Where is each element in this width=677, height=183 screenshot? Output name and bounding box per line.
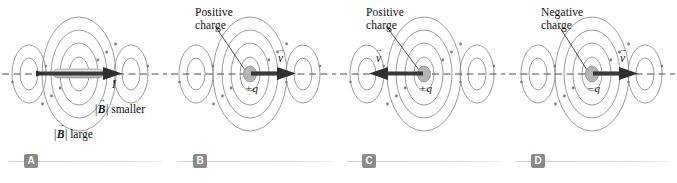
- magnetic-field-figure: I |B| smaller |B| large A: [0, 0, 677, 183]
- velocity-label: v: [277, 52, 284, 64]
- current-label: I: [112, 78, 116, 90]
- charge-caption: Negative charge: [541, 6, 583, 32]
- panel-b-footer: B: [169, 153, 338, 169]
- field-magnitude-large-label: |B| large: [54, 128, 93, 140]
- field-ring: [460, 45, 494, 103]
- panel-c-diagram: [338, 0, 507, 155]
- field-small-text: smaller: [111, 103, 145, 115]
- field-symbol-b: B: [56, 128, 65, 140]
- panel-d-footer: D: [507, 153, 676, 169]
- field-magnitude-small-label: |B| smaller: [95, 103, 145, 115]
- charge-label: +q: [245, 82, 258, 94]
- panel-badge-d[interactable]: D: [531, 154, 545, 168]
- velocity-label: v: [375, 52, 382, 64]
- velocity-arrow: [593, 67, 638, 80]
- panel-badge-a[interactable]: A: [24, 154, 38, 168]
- panel-c: Positive charge +q v C: [338, 0, 507, 183]
- field-symbol-b: B: [97, 103, 106, 115]
- charge-caption: Positive charge: [366, 6, 404, 32]
- charge-label: +q: [419, 82, 432, 94]
- charge-caption: Positive charge: [195, 6, 233, 32]
- panel-c-footer: C: [338, 153, 507, 169]
- charge-label: −q: [587, 82, 600, 94]
- panel-b: Positive charge +q v B: [169, 0, 338, 183]
- field-large-text: large: [70, 128, 93, 140]
- panel-a-footer: A: [0, 153, 169, 169]
- velocity-arrow: [251, 67, 296, 80]
- velocity-label: v: [619, 52, 626, 64]
- panel-badge-b[interactable]: B: [193, 154, 207, 168]
- panel-a: I |B| smaller |B| large A: [0, 0, 169, 183]
- panel-d: Negative charge −q v D: [507, 0, 676, 183]
- panel-d-diagram: [507, 0, 676, 155]
- panel-badge-c[interactable]: C: [362, 154, 376, 168]
